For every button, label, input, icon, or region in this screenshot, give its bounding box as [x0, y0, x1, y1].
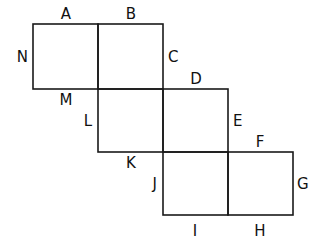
square-top-left [33, 24, 98, 89]
label-m: M [60, 91, 73, 109]
label-e: E [233, 112, 242, 130]
label-b: B [126, 5, 136, 23]
square-middle-left [98, 89, 163, 152]
label-j: J [152, 175, 157, 193]
label-d: D [190, 70, 202, 88]
label-g: G [297, 175, 309, 193]
square-top-right [98, 24, 163, 89]
net-diagram: A B C D E F G H I J K L M N [0, 0, 320, 246]
label-n: N [17, 48, 28, 66]
label-h: H [254, 222, 265, 240]
label-c: C [168, 48, 178, 66]
label-k: K [126, 154, 137, 172]
label-l: L [84, 112, 93, 130]
label-a: A [61, 5, 72, 23]
square-bottom-left [163, 152, 228, 215]
square-middle-right [163, 89, 228, 152]
squares [33, 24, 293, 215]
label-i: I [193, 222, 197, 240]
square-bottom-right [228, 152, 293, 215]
label-f: F [256, 133, 265, 151]
